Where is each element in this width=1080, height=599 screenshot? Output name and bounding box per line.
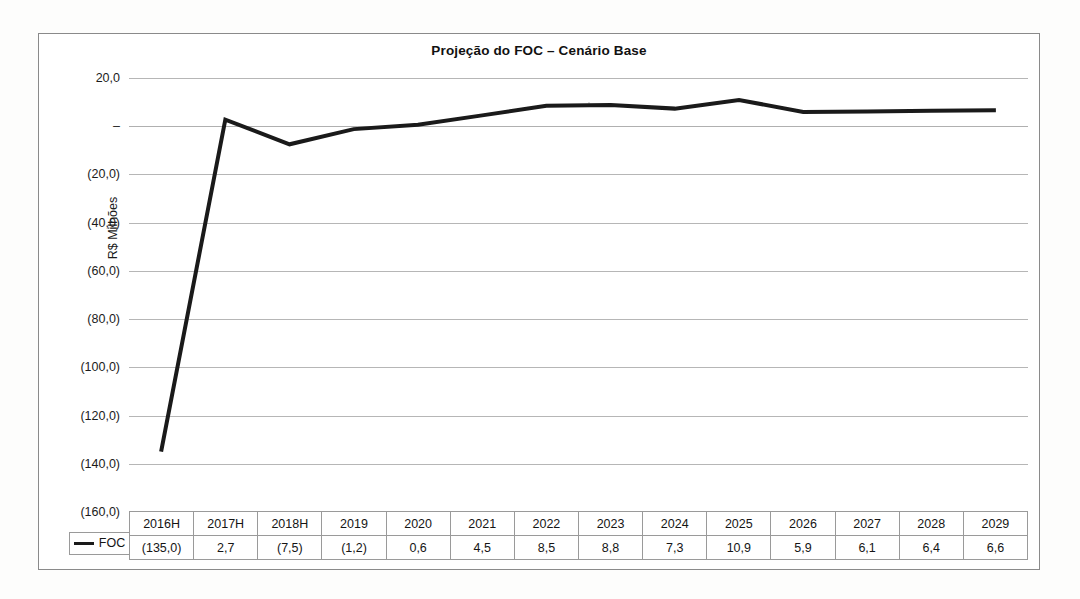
chart-title: Projeção do FOC – Cenário Base	[39, 43, 1039, 58]
table-value-cell: 6,1	[835, 536, 899, 560]
table-header-cell: 2019	[322, 512, 386, 536]
table-header-cell: 2017H	[194, 512, 258, 536]
table-value-cell: (135,0)	[130, 536, 194, 560]
table-header-cell: 2021	[450, 512, 514, 536]
legend-label: FOC	[99, 537, 125, 550]
y-axis-tick-label: (120,0)	[80, 409, 120, 423]
y-axis-tick-label: (60,0)	[87, 264, 120, 278]
legend-line-swatch-icon	[74, 542, 94, 545]
series-polyline	[161, 100, 996, 452]
table-value-cell: 2,7	[194, 536, 258, 560]
page-canvas: Projeção do FOC – Cenário Base R$ Milhõe…	[0, 0, 1080, 599]
y-axis-tick-label: (80,0)	[87, 312, 120, 326]
y-axis-tick-label: (40,0)	[87, 216, 120, 230]
y-axis-tick-label: (140,0)	[80, 457, 120, 471]
table-header-cell: 2020	[386, 512, 450, 536]
table-value-cell: 5,9	[771, 536, 835, 560]
y-axis-tick-label: (100,0)	[80, 360, 120, 374]
table-header-cell: 2023	[578, 512, 642, 536]
y-axis-tick-label: (20,0)	[87, 167, 120, 181]
series-line-foc	[129, 78, 1028, 512]
table-header-cell: 2026	[771, 512, 835, 536]
table-header-cell: 2024	[643, 512, 707, 536]
table-value-cell: 6,4	[899, 536, 963, 560]
table-header-cell: 2028	[899, 512, 963, 536]
table-header-cell: 2016H	[130, 512, 194, 536]
table-header-cell: 2029	[963, 512, 1027, 536]
table-value-cell: 8,8	[578, 536, 642, 560]
chart-frame: Projeção do FOC – Cenário Base R$ Milhõe…	[38, 33, 1040, 570]
table-header-cell: 2018H	[258, 512, 322, 536]
y-axis-tick-label: –	[113, 119, 120, 133]
table-value-cell: 4,5	[450, 536, 514, 560]
table-header-cell: 2025	[707, 512, 771, 536]
data-table-wrapper: 2016H2017H2018H2019202020212022202320242…	[129, 511, 1028, 560]
chart-data-table: 2016H2017H2018H2019202020212022202320242…	[129, 511, 1028, 560]
y-axis-tick-label: (160,0)	[80, 505, 120, 519]
table-header-cell: 2027	[835, 512, 899, 536]
table-value-cell: 0,6	[386, 536, 450, 560]
table-value-cell: 10,9	[707, 536, 771, 560]
table-header-cell: 2022	[514, 512, 578, 536]
table-value-cell: (7,5)	[258, 536, 322, 560]
y-axis-tick-label: 20,0	[96, 71, 120, 85]
table-value-cell: 7,3	[643, 536, 707, 560]
table-value-cell: 8,5	[514, 536, 578, 560]
table-header-row: 2016H2017H2018H2019202020212022202320242…	[130, 512, 1028, 536]
plot-area: 20,0–(20,0)(40,0)(60,0)(80,0)(100,0)(120…	[129, 78, 1028, 512]
table-value-row: (135,0)2,7(7,5)(1,2)0,64,58,58,87,310,95…	[130, 536, 1028, 560]
table-value-cell: (1,2)	[322, 536, 386, 560]
chart-legend: FOC	[69, 532, 130, 555]
table-value-cell: 6,6	[963, 536, 1027, 560]
